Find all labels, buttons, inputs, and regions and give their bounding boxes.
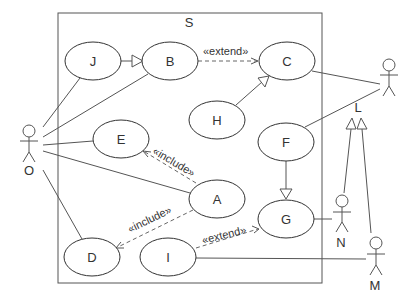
open-arrowhead-icon: [252, 226, 259, 233]
include-a-e-label: «include»: [151, 144, 198, 179]
stick-figure-icon: [367, 237, 385, 275]
use-case-label: A: [213, 192, 222, 207]
actor-m[interactable]: M: [367, 237, 385, 293]
actor-o[interactable]: O: [20, 125, 38, 178]
use-case-label: C: [282, 54, 291, 69]
use-case-e[interactable]: E: [93, 120, 149, 158]
gen-m-l-line: [362, 129, 371, 233]
stick-figure-icon: [333, 195, 351, 232]
use-case-b[interactable]: B: [142, 42, 198, 80]
use-case-label: H: [212, 113, 221, 128]
actor-label: N: [336, 235, 345, 250]
include-a-d-label: «include»: [126, 203, 174, 234]
use-case-d[interactable]: D: [64, 238, 120, 276]
actor-l[interactable]: L: [354, 59, 398, 115]
actor-label: O: [24, 163, 34, 178]
gen-arrowhead-icon: [132, 55, 143, 67]
gen-arrowhead-icon: [346, 118, 356, 129]
use-case-label: B: [166, 54, 175, 69]
gen-arrowhead-icon: [357, 118, 367, 129]
extend-i-g-label: «extend»: [201, 223, 248, 246]
use-case-label: G: [281, 212, 291, 227]
extend-b-c-label: «extend»: [203, 45, 248, 57]
use-case-c[interactable]: C: [259, 42, 315, 80]
use-case-label: D: [87, 250, 96, 265]
use-case-label: J: [90, 54, 97, 69]
open-arrowhead-icon: [143, 151, 151, 157]
use-case-label: F: [282, 135, 290, 150]
gen-arrowhead-icon: [258, 76, 269, 87]
use-case-h[interactable]: H: [189, 101, 245, 139]
use-case-a[interactable]: A: [189, 180, 245, 218]
stick-figure-icon: [380, 59, 398, 96]
use-case-label: I: [166, 250, 170, 265]
assoc-o-j: [43, 78, 80, 127]
stick-figure-icon: [20, 125, 38, 162]
use-case-g[interactable]: G: [258, 200, 314, 238]
use-case-i[interactable]: I: [140, 238, 196, 276]
gen-h-c-line: [236, 82, 262, 105]
generalizations: [121, 55, 371, 233]
use-case-diagram: S «extend»: [0, 0, 401, 299]
actor-n[interactable]: N: [333, 195, 351, 250]
actor-label: L: [354, 100, 361, 115]
assoc-l-f: [305, 89, 380, 127]
actor-label: M: [370, 278, 381, 293]
use-case-f[interactable]: F: [258, 123, 314, 161]
system-label: S: [185, 15, 194, 30]
assoc-o-d: [43, 170, 82, 239]
use-case-label: E: [117, 132, 126, 147]
assoc-o-e: [43, 141, 93, 145]
gen-arrowhead-icon: [280, 189, 292, 199]
use-case-j[interactable]: J: [65, 42, 121, 80]
gen-n-l-line: [344, 129, 351, 193]
assoc-m-i: [196, 258, 366, 259]
